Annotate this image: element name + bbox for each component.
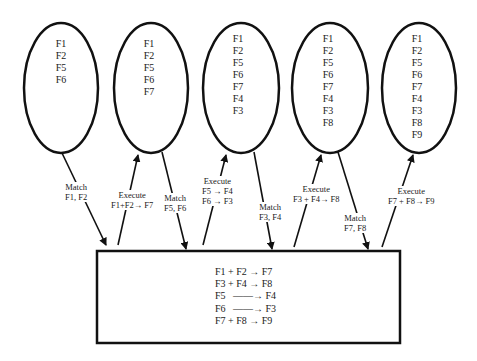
execute-label-2: Execute F5 → F4 F6 → F3 [201, 176, 234, 206]
label-line: Execute [111, 190, 153, 200]
label-line: Match [259, 202, 281, 212]
fact: F6 [129, 74, 169, 86]
fact: F6 [308, 69, 348, 81]
fact: F7 [129, 86, 169, 98]
memory-state-4: F1 F2 F5 F6 F7 F4 F3 F8 [308, 33, 348, 129]
execute-label-3: Execute F3 + F4→ F8 [292, 184, 341, 204]
rule-2: F3 + F4 → F8 [215, 278, 276, 290]
fact: F7 [397, 81, 437, 93]
fact: F5 [308, 57, 348, 69]
rule-3: F5 ——→ F4 [215, 290, 276, 302]
match-label-4: Match F7, F8 [343, 213, 367, 233]
fact: F4 [308, 93, 348, 105]
label-line: Execute [202, 176, 233, 186]
fact: F7 [218, 81, 258, 93]
label-line: Match [65, 182, 87, 192]
fact: F7 [308, 81, 348, 93]
rule-1: F1 + F2 → F7 [215, 266, 276, 278]
fact: F4 [397, 93, 437, 105]
execute-label-4: Execute F7 + F8→ F9 [387, 186, 436, 206]
fact: F5 [41, 62, 81, 74]
fact: F6 [218, 69, 258, 81]
match-arrow-3 [254, 152, 272, 249]
label-line: Match [344, 213, 366, 223]
fact: F6 [397, 69, 437, 81]
fact: F3 [308, 105, 348, 117]
label-line: F3 + F4→ F8 [293, 194, 340, 204]
memory-state-2: F1 F2 F5 F6 F7 [129, 38, 169, 98]
execute-label-1: Execute F1+F2→ F7 [110, 190, 154, 210]
fact: F1 [129, 38, 169, 50]
match-label-3: Match F3, F4 [258, 202, 282, 222]
fact: F1 [308, 33, 348, 45]
fact: F2 [218, 45, 258, 57]
label-line: F3, F4 [259, 212, 281, 222]
match-label-1: Match F1, F2 [64, 182, 88, 202]
rule-4: F6 ——→ F3 [215, 303, 276, 315]
fact: F5 [129, 62, 169, 74]
fact: F6 [41, 74, 81, 86]
fact: F1 [397, 33, 437, 45]
fact: F9 [397, 129, 437, 141]
label-line: F6 → F3 [202, 196, 233, 206]
label-line: F1, F2 [65, 192, 87, 202]
label-line: Execute [293, 184, 340, 194]
label-line: F1+F2→ F7 [111, 200, 153, 210]
fact: F2 [41, 50, 81, 62]
match-label-2: Match F5, F6 [163, 193, 187, 213]
label-line: Match [164, 193, 186, 203]
fact: F2 [129, 50, 169, 62]
label-line: Execute [388, 186, 435, 196]
rule-list: F1 + F2 → F7 F3 + F4 → F8 F5 ——→ F4 F6 —… [215, 266, 276, 327]
fact: F2 [308, 45, 348, 57]
label-line: F7, F8 [344, 223, 366, 233]
match-arrow-4 [338, 152, 368, 249]
memory-state-1: F1 F2 F5 F6 [41, 38, 81, 86]
fact: F1 [218, 33, 258, 45]
fact: F3 [218, 105, 258, 117]
memory-state-5: F1 F2 F5 F6 F7 F4 F3 F8 F9 [397, 33, 437, 141]
fact: F5 [218, 57, 258, 69]
label-line: F7 + F8→ F9 [388, 196, 435, 206]
fact: F4 [218, 93, 258, 105]
memory-state-3: F1 F2 F5 F6 F7 F4 F3 [218, 33, 258, 117]
fact: F8 [397, 117, 437, 129]
fact: F1 [41, 38, 81, 50]
fact: F3 [397, 105, 437, 117]
label-line: F5 → F4 [202, 186, 233, 196]
fact: F5 [397, 57, 437, 69]
rule-5: F7 + F8 → F9 [215, 315, 276, 327]
fact: F8 [308, 117, 348, 129]
label-line: F5, F6 [164, 203, 186, 213]
fact: F2 [397, 45, 437, 57]
